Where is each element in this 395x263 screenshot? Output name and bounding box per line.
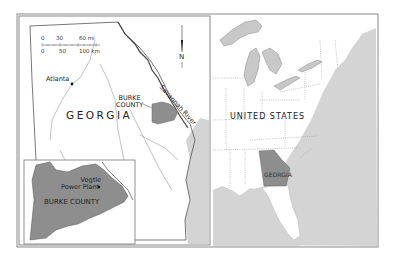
atlanta-label: Atlanta — [46, 76, 69, 83]
scale-mi-60: 60 mi — [79, 36, 95, 42]
atlanta-dot — [71, 83, 74, 86]
burke-county-label: BURKE COUNTY — [116, 95, 143, 109]
scale-mi-30: 30 — [56, 36, 63, 42]
burke-county-inset-label: BURKE COUNTY — [44, 199, 99, 206]
georgia-label: GEORGIA — [66, 110, 132, 121]
scale-km-50: 50 — [59, 49, 66, 55]
georgia-us-label: GEORGIA — [264, 172, 292, 178]
united-states-label: UNITED STATES — [230, 113, 305, 121]
scale-km-0: 0 — [41, 49, 45, 55]
north-label: N — [179, 54, 184, 61]
scale-mi-0: 0 — [41, 36, 45, 42]
scale-km-100: 100 km — [79, 49, 100, 55]
vogtle-label-line2: Power Plant — [61, 184, 99, 191]
ga-coast-ocean — [185, 118, 209, 244]
